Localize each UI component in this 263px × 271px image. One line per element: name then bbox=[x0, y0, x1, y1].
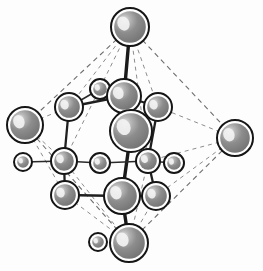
atom-small-center bbox=[90, 153, 110, 173]
atom-upper-right-ring bbox=[144, 93, 172, 121]
atom-center-large bbox=[110, 110, 152, 152]
atom-upper-center bbox=[107, 79, 141, 113]
atoms-group bbox=[7, 8, 253, 262]
atom-lower-center bbox=[104, 178, 140, 214]
atom-upper-left-ring bbox=[55, 93, 83, 121]
atom-apex-bottom bbox=[110, 224, 148, 262]
atom-small-right bbox=[164, 153, 184, 173]
atom-mid-left-ring bbox=[51, 148, 77, 174]
atom-mid-right-ring bbox=[136, 149, 160, 173]
atom-apex-left bbox=[7, 107, 43, 143]
structure-canvas bbox=[0, 0, 263, 271]
atom-small-left bbox=[14, 153, 32, 171]
atom-lower-left-ring bbox=[51, 181, 79, 209]
structure-figure bbox=[0, 0, 263, 271]
atom-small-bottom bbox=[89, 233, 107, 251]
atom-apex-right bbox=[217, 120, 253, 156]
atom-lower-right-ring bbox=[142, 182, 170, 210]
atom-apex-top bbox=[111, 8, 149, 46]
